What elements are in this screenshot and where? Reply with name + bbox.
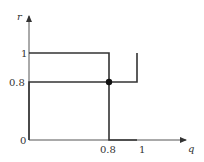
curve-1 (29, 53, 137, 140)
y-tick-0-8: 0.8 (9, 77, 25, 88)
intersection-dot (106, 79, 112, 85)
y-tick-1: 1 (21, 48, 27, 59)
x-axis-label: q (188, 143, 194, 154)
x-tick-1: 1 (139, 144, 145, 155)
y-axis-label: r (17, 11, 23, 22)
origin-label: 0 (20, 135, 26, 146)
x-tick-0-8: 0.8 (100, 144, 116, 155)
curve-2 (29, 53, 137, 140)
diagram-canvas: r q 1 0.8 0 0.8 1 (0, 0, 204, 162)
